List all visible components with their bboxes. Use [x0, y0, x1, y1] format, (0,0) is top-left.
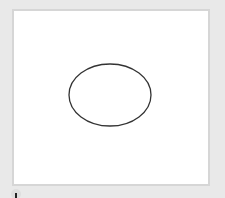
bottom-toolbar: [0, 186, 225, 198]
drawing-canvas[interactable]: [14, 11, 208, 184]
ellipse-shape[interactable]: [69, 64, 151, 126]
canvas-frame: [12, 9, 210, 186]
drawing-tool-icon[interactable]: [11, 189, 21, 198]
canvas-svg: [14, 11, 208, 184]
